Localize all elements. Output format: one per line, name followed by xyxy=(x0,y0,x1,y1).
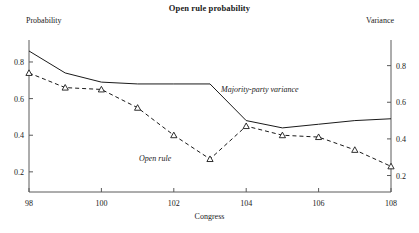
plot-frame xyxy=(29,40,391,192)
x-tick-label: 100 xyxy=(95,199,107,208)
series-open-rule-markers xyxy=(26,70,394,169)
x-tick-label: 104 xyxy=(240,199,252,208)
x-tick-label: 102 xyxy=(168,199,180,208)
y-tick-label-right: 0.8 xyxy=(396,62,406,71)
line-majority-party-variance xyxy=(29,51,391,128)
x-axis-ticks: 98100102104106108 xyxy=(25,188,397,208)
y-tick-label-right: 0.4 xyxy=(396,135,406,144)
plot-canvas: 0.20.40.60.8 0.20.40.60.8 98100102104106… xyxy=(0,0,419,233)
series-majority-party-variance xyxy=(29,51,391,128)
y-tick-label-right: 0.6 xyxy=(396,98,406,107)
data-point-marker xyxy=(243,123,249,129)
y-tick-label-left: 0.6 xyxy=(14,95,24,104)
data-point-marker xyxy=(352,147,358,153)
annotation-majority-party-variance: Majority-party variance xyxy=(220,85,299,94)
chart-figure: Open rule probability Probability Varian… xyxy=(0,0,419,233)
data-point-marker xyxy=(135,105,141,111)
x-tick-label: 98 xyxy=(25,199,33,208)
data-point-marker xyxy=(26,70,32,76)
annotation-open-rule: Open rule xyxy=(139,154,172,163)
data-point-marker xyxy=(171,132,177,138)
data-point-marker xyxy=(207,156,213,162)
data-point-marker xyxy=(62,85,68,91)
y-axis-ticks-right: 0.20.40.60.8 xyxy=(387,62,406,181)
series-open-rule xyxy=(29,73,391,166)
x-tick-label: 106 xyxy=(313,199,325,208)
data-point-marker xyxy=(388,163,394,169)
y-tick-label-left: 0.4 xyxy=(14,131,24,140)
y-tick-label-left: 0.2 xyxy=(14,168,24,177)
x-tick-label: 108 xyxy=(385,199,397,208)
line-open-rule xyxy=(29,73,391,166)
y-tick-label-right: 0.2 xyxy=(396,172,406,181)
y-tick-label-left: 0.8 xyxy=(14,58,24,67)
